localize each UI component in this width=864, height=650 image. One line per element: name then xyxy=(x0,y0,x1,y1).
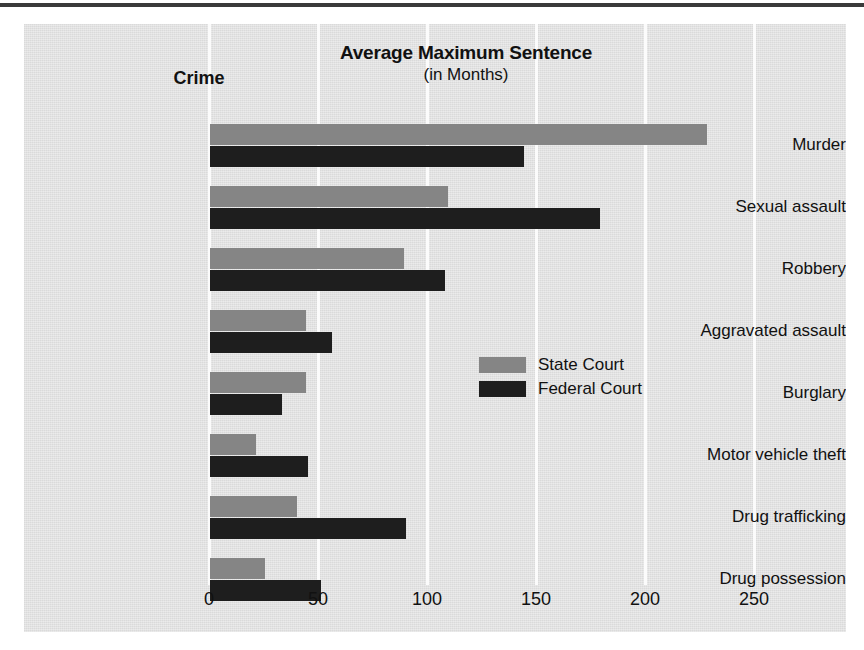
bar-federal-murder xyxy=(210,146,524,167)
gridline-250 xyxy=(753,24,756,585)
bar-state-burglary xyxy=(210,372,306,393)
bar-state-sexual-assault xyxy=(210,186,448,207)
top-divider-rule xyxy=(0,3,864,7)
category-axis-header: Crime xyxy=(134,68,264,89)
bar-state-murder xyxy=(210,124,707,145)
chart-panel: Average Maximum Sentence (in Months) Cri… xyxy=(24,24,846,632)
category-label-drug-trafficking: Drug trafficking xyxy=(671,507,846,527)
xtick-label-150: 150 xyxy=(506,589,566,610)
chart-subtitle: (in Months) xyxy=(256,65,676,85)
bar-federal-aggravated-assault xyxy=(210,332,332,353)
xtick-label-50: 50 xyxy=(288,589,348,610)
bar-federal-robbery xyxy=(210,270,445,291)
category-label-motor-vehicle-theft: Motor vehicle theft xyxy=(671,445,846,465)
gridline-200 xyxy=(644,24,647,585)
gridline-150 xyxy=(535,24,538,585)
legend-label-state-court: State Court xyxy=(538,355,624,375)
bar-federal-burglary xyxy=(210,394,282,415)
legend-label-federal-court: Federal Court xyxy=(538,379,642,399)
category-label-robbery: Robbery xyxy=(671,259,846,279)
category-label-burglary: Burglary xyxy=(671,383,846,403)
legend-item-state-court: State Court xyxy=(479,353,642,377)
bar-state-drug-trafficking xyxy=(210,496,297,517)
category-label-sexual-assault: Sexual assault xyxy=(671,197,846,217)
gridline-50 xyxy=(317,24,320,585)
xtick-label-200: 200 xyxy=(615,589,675,610)
xtick-label-0: 0 xyxy=(179,589,239,610)
category-label-drug-possession: Drug possession xyxy=(671,569,846,589)
bar-federal-motor-vehicle-theft xyxy=(210,456,308,477)
xtick-label-250: 250 xyxy=(724,589,784,610)
bar-federal-sexual-assault xyxy=(210,208,600,229)
chart-title-block: Average Maximum Sentence (in Months) xyxy=(256,42,676,84)
bar-state-robbery xyxy=(210,248,404,269)
xtick-label-100: 100 xyxy=(397,589,457,610)
chart-legend: State Court Federal Court xyxy=(479,353,642,401)
bar-federal-drug-trafficking xyxy=(210,518,406,539)
bar-state-motor-vehicle-theft xyxy=(210,434,256,455)
legend-swatch-state-court-icon xyxy=(479,357,526,373)
bar-state-drug-possession xyxy=(210,558,265,579)
category-label-aggravated-assault: Aggravated assault xyxy=(671,321,846,341)
legend-item-federal-court: Federal Court xyxy=(479,377,642,401)
chart-title: Average Maximum Sentence xyxy=(256,42,676,64)
legend-swatch-federal-court-icon xyxy=(479,381,526,397)
gridline-100 xyxy=(426,24,429,585)
bar-state-aggravated-assault xyxy=(210,310,306,331)
